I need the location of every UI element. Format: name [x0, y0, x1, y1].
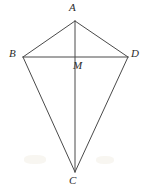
kite-drawing: [0, 0, 146, 189]
segment-AB: [23, 21, 75, 57]
segment-AD: [75, 21, 128, 57]
segment-BC: [23, 57, 75, 172]
vertex-label-C: C: [69, 175, 76, 186]
segment-DC: [75, 57, 128, 172]
vertex-label-A: A: [69, 2, 76, 13]
vertex-label-M: M: [73, 60, 82, 71]
vertex-label-D: D: [131, 48, 139, 59]
vertex-label-B: B: [9, 48, 16, 59]
geometry-figure: A B D M C: [0, 0, 146, 189]
